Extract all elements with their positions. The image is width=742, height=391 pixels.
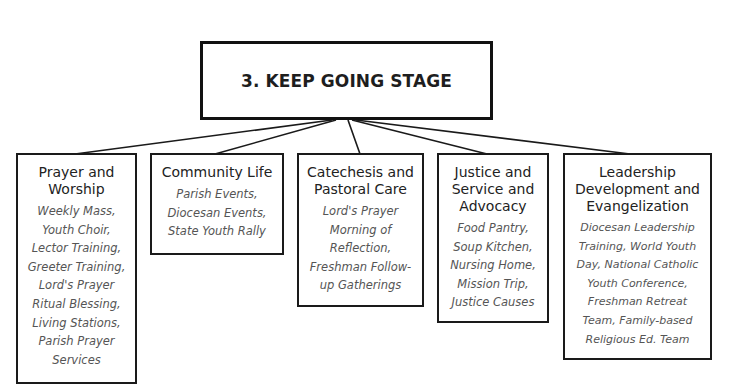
root-stage-box: 3. KEEP GOING STAGE — [200, 41, 493, 120]
category-items: Parish Events, Diocesan Events, State Yo… — [152, 185, 282, 241]
connector-catechesis — [348, 120, 360, 154]
category-items: Lord's Prayer Morning of Reflection, Fre… — [299, 202, 422, 295]
category-community-life: Community Life Parish Events, Diocesan E… — [150, 153, 284, 255]
category-items: Diocesan Leadership Training, World Yout… — [565, 219, 710, 349]
connector-prayer — [75, 120, 332, 154]
category-items: Weekly Mass, Youth Choir, Lector Trainin… — [18, 202, 135, 369]
category-justice-service: Justice and Service and Advocacy Food Pa… — [437, 153, 549, 323]
connector-leadership — [356, 120, 630, 154]
category-title: Leadership Development and Evangelizatio… — [567, 164, 708, 215]
root-stage-title: 3. KEEP GOING STAGE — [241, 71, 452, 91]
connector-community — [215, 120, 336, 154]
category-title: Justice and Service and Advocacy — [441, 164, 545, 215]
connector-justice — [352, 120, 487, 154]
category-catechesis-pastoral: Catechesis and Pastoral Care Lord's Pray… — [297, 153, 424, 307]
category-leadership-evangelization: Leadership Development and Evangelizatio… — [563, 153, 712, 360]
category-title: Community Life — [154, 164, 280, 181]
category-prayer-worship: Prayer and Worship Weekly Mass, Youth Ch… — [16, 153, 137, 384]
category-title: Prayer and Worship — [20, 164, 133, 198]
category-items: Food Pantry, Soup Kitchen, Nursing Home,… — [439, 219, 547, 312]
category-title: Catechesis and Pastoral Care — [301, 164, 420, 198]
